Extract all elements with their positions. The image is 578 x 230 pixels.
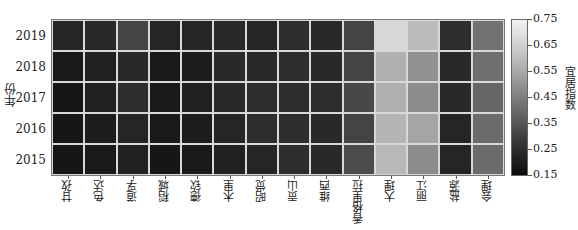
y-tick-label: 2018 — [12, 60, 46, 74]
heatmap-cell — [279, 21, 309, 50]
heatmap-cell — [182, 145, 212, 174]
x-tick-mark — [326, 176, 327, 179]
x-tick-mark — [100, 176, 101, 179]
colorbar-tick-mark — [528, 71, 532, 72]
heatmap-cell — [311, 52, 341, 81]
x-tick-label: 色达 — [94, 180, 106, 204]
colorbar-label: 宜居指数 — [563, 66, 575, 110]
heatmap-cell — [279, 114, 309, 143]
heatmap-cell — [214, 145, 244, 174]
heatmap-cell — [118, 52, 148, 81]
heatmap-cell — [311, 114, 341, 143]
x-tick-label: 稻城 — [159, 180, 171, 204]
heatmap-cell — [214, 21, 244, 50]
x-tick-label: 甘孜 — [62, 180, 74, 204]
heatmap-cell — [150, 21, 180, 50]
x-tick-label: 贡山 — [288, 180, 300, 204]
heatmap-cell — [408, 114, 438, 143]
heatmap-cell — [118, 21, 148, 50]
heatmap-cell — [214, 83, 244, 112]
heatmap-cell — [247, 145, 277, 174]
heatmap-cell — [440, 83, 470, 112]
x-tick-label: 盐源 — [450, 180, 462, 204]
colorbar — [511, 19, 528, 176]
heatmap-cell — [85, 83, 115, 112]
heatmap-cell — [182, 114, 212, 143]
x-tick-label: 维西 — [320, 180, 332, 204]
heatmap-cell — [473, 145, 503, 174]
x-tick-mark — [230, 176, 231, 179]
heatmap-cell — [473, 21, 503, 50]
heatmap-cell — [150, 52, 180, 81]
heatmap-cell — [279, 145, 309, 174]
colorbar-tick-mark — [528, 19, 532, 20]
heatmap-cell — [344, 145, 374, 174]
x-tick-mark — [294, 176, 295, 179]
heatmap-cell — [214, 114, 244, 143]
heatmap-cell — [376, 83, 406, 112]
heatmap-cell — [311, 145, 341, 174]
heatmap-cell — [344, 114, 374, 143]
heatmap-cell — [279, 52, 309, 81]
heatmap-cell — [473, 83, 503, 112]
x-tick-label: 会理 — [482, 180, 494, 204]
heatmap-cell — [85, 21, 115, 50]
heatmap-cell — [376, 21, 406, 50]
colorbar-tick-label: 0.65 — [533, 39, 558, 51]
heatmap-cell — [118, 114, 148, 143]
x-tick-mark — [197, 176, 198, 179]
x-tick-label: 德钦 — [191, 180, 203, 204]
heatmap-cell — [440, 21, 470, 50]
x-tick-mark — [359, 176, 360, 179]
heatmap-cell — [214, 52, 244, 81]
heatmap-cell — [376, 145, 406, 174]
x-tick-label: 道孚 — [127, 180, 139, 204]
x-tick-mark — [262, 176, 263, 179]
heatmap-cell — [247, 21, 277, 50]
colorbar-tick-mark — [528, 149, 532, 150]
x-tick-label: 大理 — [385, 180, 397, 204]
y-tick-label: 2016 — [12, 122, 46, 136]
heatmap-cell — [247, 52, 277, 81]
x-tick-mark — [456, 176, 457, 179]
heatmap-plot-area — [51, 19, 505, 176]
y-tick-label: 2015 — [12, 153, 46, 167]
x-tick-mark — [391, 176, 392, 179]
heatmap-cell — [473, 114, 503, 143]
colorbar-tick-label: 0.25 — [533, 143, 558, 155]
heatmap-cell — [440, 114, 470, 143]
x-tick-mark — [423, 176, 424, 179]
heatmap-cell — [150, 145, 180, 174]
heatmap-cell — [247, 114, 277, 143]
heatmap-cell — [150, 83, 180, 112]
x-tick-mark — [165, 176, 166, 179]
heatmap-cell — [311, 83, 341, 112]
colorbar-tick-mark — [528, 97, 532, 98]
heatmap-cell — [344, 52, 374, 81]
heatmap-cell — [408, 21, 438, 50]
heatmap-cell — [182, 21, 212, 50]
x-tick-mark — [133, 176, 134, 179]
heatmap-cell — [118, 145, 148, 174]
colorbar-tick-label: 0.55 — [533, 65, 558, 77]
heatmap-cell — [344, 21, 374, 50]
heatmap-cell — [150, 114, 180, 143]
heatmap-cell — [408, 52, 438, 81]
x-tick-mark — [68, 176, 69, 179]
heatmap-cell — [53, 145, 83, 174]
heatmap-cell — [118, 83, 148, 112]
x-tick-label: 香格里拉 — [353, 180, 365, 228]
heatmap-cell — [408, 145, 438, 174]
heatmap-cell — [85, 145, 115, 174]
colorbar-tick-mark — [528, 45, 532, 46]
colorbar-tick-label: 0.75 — [533, 13, 558, 25]
heatmap-cell — [344, 83, 374, 112]
y-tick-label: 2019 — [12, 29, 46, 43]
heatmap-cell — [85, 114, 115, 143]
heatmap-cell — [311, 21, 341, 50]
colorbar-tick-label: 0.45 — [533, 91, 558, 103]
heatmap-cell — [408, 83, 438, 112]
heatmap-cell — [247, 83, 277, 112]
heatmap-cell — [473, 52, 503, 81]
heatmap-cell — [376, 52, 406, 81]
